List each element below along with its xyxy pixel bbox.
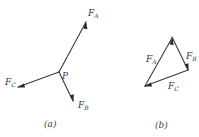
panel-b: FA FB FC (b)	[144, 37, 197, 130]
triangle-force-c	[145, 70, 188, 86]
triangle-force-b-label: FB	[185, 51, 197, 62]
panel-a: P FA FC FB (a)	[4, 8, 99, 129]
force-c-arrowhead-icon	[17, 84, 25, 88]
force-diagram: P FA FC FB (a) FA FB FC (b)	[0, 0, 199, 137]
force-b-label: FB	[77, 100, 89, 111]
force-a-label: FA	[87, 8, 99, 19]
force-a-arrow	[59, 22, 86, 72]
caption-a: (a)	[44, 119, 57, 129]
triangle-force-c-label: FC	[167, 81, 179, 92]
force-c-label: FC	[4, 77, 16, 88]
caption-b: (b)	[155, 120, 168, 130]
triangle-force-a-label: FA	[145, 54, 157, 65]
force-b-arrowhead-icon	[70, 94, 74, 102]
point-p-label: P	[61, 71, 69, 81]
triangle-force-c-arrowhead-icon	[144, 83, 152, 87]
